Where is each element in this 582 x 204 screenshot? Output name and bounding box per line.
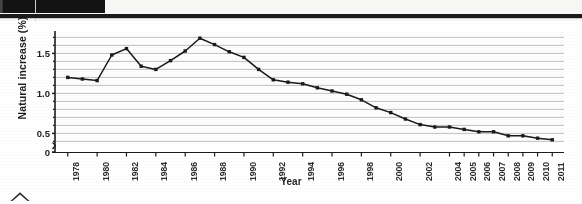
data-point (66, 76, 69, 79)
data-point (184, 49, 187, 52)
data-point (154, 68, 157, 71)
y-axis-tick-labels: 00.51.01.5 (0, 21, 50, 171)
data-point (316, 86, 319, 89)
data-point (272, 78, 275, 81)
plot-area (56, 31, 564, 143)
data-point (139, 65, 142, 68)
data-point (345, 93, 348, 96)
data-point (418, 123, 421, 126)
data-point (477, 130, 480, 133)
data-point (81, 77, 84, 80)
data-point (286, 81, 289, 84)
data-point (433, 125, 436, 128)
data-point (551, 138, 554, 141)
gridlines (56, 37, 564, 141)
x-axis-title: Year (0, 176, 582, 187)
y-axis-tick-label: 0.5 (2, 128, 50, 139)
data-point (360, 98, 363, 101)
data-point (110, 53, 113, 56)
plot-svg (56, 31, 564, 143)
data-point (462, 128, 465, 131)
data-point (228, 50, 231, 53)
data-point (213, 43, 216, 46)
page-chevron-mark (8, 190, 32, 202)
data-point (125, 47, 128, 50)
page-header-band (0, 0, 582, 21)
data-point (301, 82, 304, 85)
data-point (536, 137, 539, 140)
data-point (374, 106, 377, 109)
data-point (330, 89, 333, 92)
y-axis-tick-label: 1.0 (2, 88, 50, 99)
chart-figure: Natural increase (%) 00.51.01.5 19781980… (0, 21, 582, 204)
data-point (242, 56, 245, 59)
y-axis-tick-label: 1.5 (2, 48, 50, 59)
data-point (169, 59, 172, 62)
data-point (198, 37, 201, 40)
data-point (521, 134, 524, 137)
data-point (389, 111, 392, 114)
data-point (257, 68, 260, 71)
data-point (448, 125, 451, 128)
header-rule-thin (0, 18, 582, 19)
x-axis-tick-labels: 1978198019821984198619881990199219941996… (0, 154, 582, 194)
data-point (507, 134, 510, 137)
data-point (404, 117, 407, 120)
data-point (492, 130, 495, 133)
data-point (95, 79, 98, 82)
